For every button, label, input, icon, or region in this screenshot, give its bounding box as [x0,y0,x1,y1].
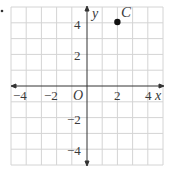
point-c-label: C [121,4,132,20]
axes [11,6,164,166]
point-c-marker [114,19,120,25]
origin-label: O [73,88,83,103]
x-tick-neg4: −4 [13,88,27,103]
coordinate-plane: y x O −4 −2 2 4 4 2 −2 −4 C [0,0,169,171]
x-axis-label: x [154,88,162,103]
x-tick-2: 2 [114,88,121,103]
y-tick-2: 2 [74,48,81,63]
bullet-marker [1,10,4,13]
y-tick-4: 4 [74,17,81,32]
y-tick-neg4: −4 [67,143,81,158]
y-tick-neg2: −2 [67,112,81,127]
x-tick-4: 4 [145,88,152,103]
x-tick-neg2: −2 [44,88,58,103]
y-axis-label: y [90,6,99,21]
